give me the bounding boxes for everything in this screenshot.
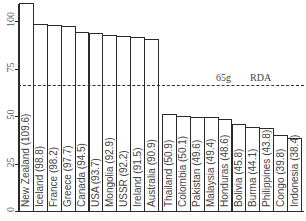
y-tick-label: 75 — [5, 55, 16, 79]
bar-label: Ireland (91.5) — [132, 148, 143, 207]
y-tick-label: 100 — [5, 8, 16, 32]
bar-indonesia: Indonesia (38.4) — [287, 138, 302, 211]
bar-label: Thailand (50.9) — [163, 140, 174, 207]
bar-mongolia: Mongolia (92.9) — [102, 35, 117, 211]
bar-label: Philippines (43.8) — [261, 130, 272, 207]
bar-burma: Burma (44.1) — [245, 127, 260, 211]
rda-value-label: 65g — [216, 72, 231, 83]
bar-label: Greece (97.7) — [62, 145, 73, 207]
bar-label: Canada (94.5) — [76, 143, 87, 207]
bar-label: Colombia (50.1) — [177, 136, 188, 207]
bar-ussr: USSR (92.2) — [116, 36, 131, 211]
bar-australia: Australia (90.9) — [144, 39, 159, 211]
bar-label: Congo (39.8) — [275, 149, 286, 207]
bar-label: Bolivia (45.8) — [233, 149, 244, 207]
bar-malaysia: Malaysia (49.4) — [204, 117, 219, 211]
y-tick-label: 50 — [5, 103, 16, 127]
bar-label: Burma (44.1) — [247, 149, 258, 207]
bar-iceland: Iceland (98.8) — [33, 24, 48, 211]
bar-label: Iceland (98.8) — [34, 146, 45, 207]
bar-label: Indonesia (38.4) — [289, 135, 300, 207]
bar-label: New Zealand (109.6) — [20, 114, 31, 207]
bar-label: Malaysia (49.4) — [205, 139, 216, 207]
bar-ireland: Ireland (91.5) — [130, 37, 145, 211]
x-axis-baseline — [18, 211, 304, 212]
rda-name-label: RDA — [250, 72, 271, 83]
bar-label: Honduras (48.6) — [219, 135, 230, 207]
bar-label: Mongolia (92.9) — [104, 138, 115, 207]
y-tick — [15, 211, 19, 212]
bar-canada: Canada (94.5) — [75, 32, 90, 211]
bar-colombia: Colombia (50.1) — [176, 116, 191, 211]
bar-label: Pakistan (49.6) — [191, 140, 202, 207]
bar-philippines: Philippines (43.8) — [259, 128, 274, 211]
y-tick-label: 25 — [5, 150, 16, 174]
bar-usa: USA (93.7) — [89, 33, 104, 211]
bar-bolivia: Bolivia (45.8) — [232, 124, 247, 211]
y-tick-label: 0 — [5, 198, 16, 221]
bar-greece: Greece (97.7) — [61, 26, 76, 211]
rda-reference-line — [18, 85, 304, 86]
bar-label: Australia (90.9) — [146, 139, 157, 207]
bar-congo: Congo (39.8) — [273, 135, 288, 211]
bar-pakistan: Pakistan (49.6) — [190, 117, 205, 211]
bar-label: France (98.2) — [48, 147, 59, 207]
bar-thailand: Thailand (50.9) — [162, 114, 177, 211]
bar-honduras: Honduras (48.6) — [218, 119, 233, 211]
bar-label: USA (93.7) — [90, 158, 101, 207]
bar-new-zealand: New Zealand (109.6) — [19, 3, 34, 211]
bar-label: USSR (92.2) — [118, 150, 129, 207]
protein-intake-bar-chart: 0255075100 New Zealand (109.6)Iceland (9… — [0, 0, 306, 220]
bar-france: France (98.2) — [47, 25, 62, 211]
